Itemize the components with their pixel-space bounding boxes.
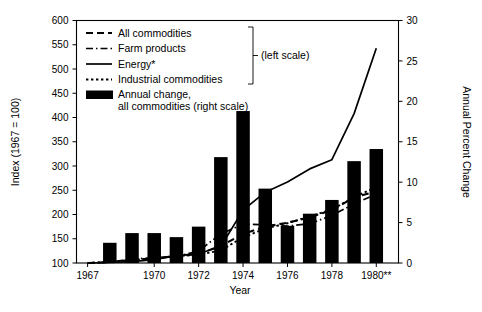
- bar: [103, 243, 117, 263]
- right-tick-label: 15: [407, 136, 419, 147]
- price-index-chart: 100150200250300350400450500550600 051015…: [0, 0, 482, 312]
- legend-label-industrial-commodities: Industrial commodities: [118, 73, 222, 85]
- chart-page: 100150200250300350400450500550600 051015…: [0, 0, 482, 312]
- right-tick-label: 30: [407, 15, 419, 26]
- left-tick-label: 450: [52, 88, 69, 99]
- bar: [281, 226, 295, 263]
- legend-bracket-label: (left scale): [261, 49, 309, 61]
- bar: [170, 237, 184, 263]
- bar: [325, 200, 339, 263]
- left-tick-label: 550: [52, 39, 69, 50]
- left-tick-label: 100: [52, 258, 69, 269]
- x-tick-label: 1976: [276, 270, 299, 281]
- y2-axis-title: Annual Percent Change: [461, 86, 473, 198]
- legend-label-annual-change-line1: Annual change,: [118, 88, 191, 100]
- left-tick-label: 400: [52, 112, 69, 123]
- left-tick-label: 250: [52, 185, 69, 196]
- bar: [370, 149, 384, 263]
- legend-label-energy: Energy*: [118, 58, 155, 70]
- bar: [347, 161, 361, 263]
- legend-label-farm-products: Farm products: [118, 42, 186, 54]
- right-tick-label: 5: [407, 217, 413, 228]
- legend-label-annual-change-line2: all commodities (right scale): [118, 100, 248, 112]
- left-tick-label: 200: [52, 209, 69, 220]
- x-tick-label: 1967: [76, 270, 99, 281]
- y-axis-title: Index (1967 = 100): [9, 98, 21, 186]
- right-tick-label: 20: [407, 96, 419, 107]
- legend-sample-annual-change: [86, 91, 113, 100]
- right-tick-label: 25: [407, 56, 419, 67]
- legend-label-all-commodities: All commodities: [118, 27, 192, 39]
- left-tick-label: 500: [52, 64, 69, 75]
- left-tick-label: 300: [52, 161, 69, 172]
- bar: [236, 111, 250, 263]
- left-tick-label: 150: [52, 233, 69, 244]
- bar: [192, 227, 206, 263]
- left-tick-label: 600: [52, 15, 69, 26]
- right-tick-label: 10: [407, 177, 419, 188]
- x-tick-label: 1970: [143, 270, 166, 281]
- left-tick-label: 350: [52, 136, 69, 147]
- x-tick-label: 1978: [321, 270, 344, 281]
- right-tick-label: 0: [407, 258, 413, 269]
- x-tick-label: 1974: [232, 270, 255, 281]
- x-tick-label: 1980**: [361, 270, 391, 281]
- x-axis-title: Year: [229, 284, 251, 296]
- x-tick-label: 1972: [188, 270, 211, 281]
